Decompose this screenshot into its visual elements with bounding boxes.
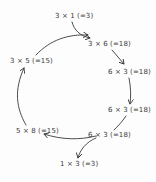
arrow-n7-n8 bbox=[17, 68, 26, 125]
node-6x3-b: 6 × 3 (=18) bbox=[108, 106, 151, 114]
node-3x6: 3 × 6 (=18) bbox=[88, 40, 131, 48]
arrow-n8-n2 bbox=[36, 35, 88, 55]
node-3x5: 3 × 5 (=15) bbox=[10, 57, 53, 65]
node-3x1: 3 × 1 (=3) bbox=[55, 12, 93, 20]
arrow-n5-n6 bbox=[78, 138, 96, 158]
arrow-n3-n4 bbox=[129, 78, 131, 104]
node-5x8: 5 × 8 (=15) bbox=[16, 127, 59, 135]
node-6x3-c: 6 × 3 (=18) bbox=[88, 131, 131, 139]
arrow-n2-n3 bbox=[112, 50, 124, 64]
arrows-layer bbox=[0, 0, 156, 182]
node-1x3: 1 × 3 (=3) bbox=[60, 160, 98, 168]
node-6x3-a: 6 × 3 (=18) bbox=[108, 68, 151, 76]
diagram-canvas: 3 × 1 (=3) 3 × 6 (=18) 6 × 3 (=18) 6 × 3… bbox=[0, 0, 156, 182]
arrow-n4-n5 bbox=[114, 116, 126, 130]
